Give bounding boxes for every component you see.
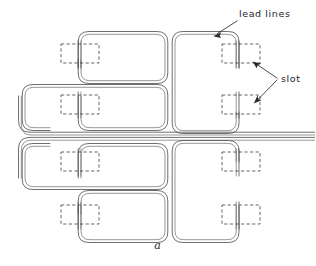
leader-lead-lines [213,21,237,38]
lead-lines-label: lead lines [239,9,290,19]
coil-mid-lower-outer [22,144,168,190]
slot-tl-2 [61,95,99,114]
slots-group [61,44,260,224]
coil-bottom-left-inner [81,193,165,239]
winding-diagram [0,0,315,266]
coil-top-right [172,32,239,134]
coil-top-right-outer [172,32,239,134]
coil-top-left [78,32,168,84]
coil-top-left-inner [81,34,165,80]
coil-bottom-right [172,141,239,243]
lead-lines-group [19,96,316,178]
lead-line-lower [19,137,316,178]
slot-tr-1 [222,44,260,63]
slot-tr-2 [222,95,260,114]
slot-leader-line-lower [258,80,277,100]
coil-bottom-left-outer [78,191,168,243]
coil-mid-upper [22,85,168,131]
coil-bottom-right-outer [172,141,239,243]
slot-bl-2 [61,205,99,224]
coil-mid-lower [22,144,168,190]
lead-lines-arrowhead [213,32,221,38]
slot-label: slot [281,74,301,84]
figure-caption: a [0,240,315,251]
coil-bottom-right-inner [175,143,236,239]
slot-bl-1 [61,152,99,171]
coil-bottom-left [78,191,168,243]
slot-tl-1 [61,44,99,63]
figure-root: lead lines slot a [0,0,315,266]
coil-mid-upper-outer [22,85,168,131]
coil-top-right-inner [175,34,236,130]
leader-slot [253,62,277,104]
slot-br-1 [222,152,260,171]
slot-br-2 [222,205,260,224]
coil-mid-upper-inner [25,87,165,127]
coil-top-left-outer [78,32,168,84]
slot-leader-line-upper [257,65,277,79]
lead-line-upper [19,96,316,132]
